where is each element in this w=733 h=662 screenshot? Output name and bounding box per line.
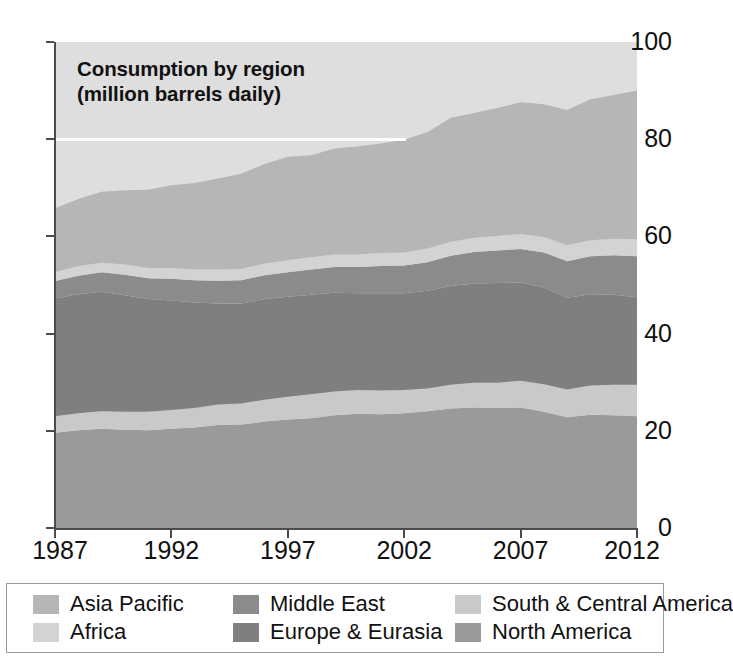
legend-swatch-icon — [33, 595, 59, 614]
y-tick-80 — [46, 138, 54, 140]
legend-label: Europe & Eurasia — [270, 621, 442, 643]
legend-swatch-icon — [233, 595, 259, 614]
y-tick-20 — [46, 430, 54, 432]
legend-label: Asia Pacific — [70, 593, 184, 615]
y-tick-label-60: 60 — [630, 223, 672, 248]
x-tick-label-2002: 2002 — [359, 538, 449, 563]
legend: Asia PacificMiddle EastSouth & Central A… — [6, 583, 664, 653]
y-tick-label-100: 100 — [630, 29, 672, 54]
legend-label: Middle East — [270, 593, 385, 615]
plot-title: Consumption by region (million barrels d… — [77, 56, 305, 106]
y-tick-label-20: 20 — [630, 418, 672, 443]
legend-swatch-icon — [233, 623, 259, 642]
y-tick-0 — [46, 527, 54, 529]
x-tick-label-1987: 1987 — [15, 538, 105, 563]
y-tick-label-40: 40 — [630, 321, 672, 346]
legend-item-africa[interactable]: Africa — [33, 621, 233, 643]
gridline-80 — [55, 138, 406, 141]
legend-label: Africa — [70, 621, 126, 643]
y-axis-line — [54, 42, 56, 530]
x-tick-label-2007: 2007 — [476, 538, 566, 563]
legend-swatch-icon — [33, 623, 59, 642]
legend-item-south-central-america[interactable]: South & Central America — [455, 593, 733, 615]
y-tick-60 — [46, 235, 54, 237]
plot-area: Consumption by region (million barrels d… — [55, 42, 637, 528]
stacked-area-svg — [55, 42, 637, 528]
legend-grid: Asia PacificMiddle EastSouth & Central A… — [7, 584, 663, 652]
legend-label: North America — [492, 621, 631, 643]
y-tick-100 — [46, 41, 54, 43]
x-axis-line — [54, 528, 638, 530]
y-tick-40 — [46, 333, 54, 335]
legend-item-north-america[interactable]: North America — [455, 621, 733, 643]
legend-swatch-icon — [455, 623, 481, 642]
legend-item-europe-eurasia[interactable]: Europe & Eurasia — [233, 621, 455, 643]
legend-swatch-icon — [455, 595, 481, 614]
legend-label: South & Central America — [492, 593, 733, 615]
y-tick-label-80: 80 — [630, 126, 672, 151]
x-tick-label-1997: 1997 — [243, 538, 333, 563]
legend-item-middle-east[interactable]: Middle East — [233, 593, 455, 615]
legend-item-asia-pacific[interactable]: Asia Pacific — [33, 593, 233, 615]
x-tick-label-1992: 1992 — [126, 538, 216, 563]
x-tick-label-2012: 2012 — [587, 538, 677, 563]
